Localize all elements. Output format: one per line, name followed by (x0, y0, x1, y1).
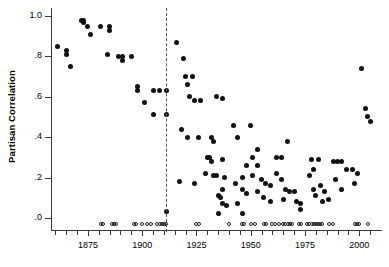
observation-marker (114, 222, 118, 226)
data-point (339, 187, 344, 192)
x-axis-tick-minor (175, 231, 176, 235)
data-point (285, 139, 290, 144)
data-point (142, 100, 147, 105)
y-axis-tick-label: .2 (34, 173, 42, 182)
data-point (320, 199, 325, 204)
data-point (85, 24, 90, 29)
observation-marker (357, 222, 361, 226)
x-axis-tick-minor (207, 231, 208, 235)
data-point (235, 135, 240, 140)
x-axis-tick-minor (316, 231, 317, 235)
x-axis-tick-minor (294, 231, 295, 235)
data-point (129, 54, 134, 59)
data-point (318, 183, 323, 188)
data-point (151, 112, 156, 117)
data-point (298, 201, 303, 206)
x-axis-tick-label: 1925 (186, 240, 206, 250)
y-axis-tick-label: .6 (34, 92, 42, 101)
data-point (355, 171, 360, 176)
x-axis-tick-minor (55, 231, 56, 235)
data-point (255, 189, 260, 194)
data-point (220, 187, 225, 192)
data-point (120, 58, 125, 63)
data-point (190, 74, 195, 79)
x-axis-tick-minor (240, 231, 241, 235)
x-axis-tick-minor (262, 231, 263, 235)
data-point (192, 98, 197, 103)
data-point (309, 157, 314, 162)
data-point (240, 175, 245, 180)
data-point (261, 195, 266, 200)
data-point (307, 173, 312, 178)
data-point (55, 44, 60, 49)
data-point (240, 211, 245, 216)
x-axis-tick-major (359, 231, 360, 236)
y-axis-tick-label: .8 (34, 51, 42, 60)
data-point (311, 167, 316, 172)
data-point (248, 123, 253, 128)
data-point (98, 24, 103, 29)
observation-marker (149, 222, 153, 226)
data-point (333, 177, 338, 182)
x-axis-tick-minor (131, 231, 132, 235)
data-point (313, 193, 318, 198)
data-point (250, 173, 255, 178)
data-point (224, 203, 229, 208)
y-axis-title: Partisan Correlation (0, 0, 22, 232)
data-point (352, 181, 357, 186)
x-axis-tick-minor (218, 231, 219, 235)
data-point (222, 175, 227, 180)
data-point (214, 173, 219, 178)
data-point (216, 211, 221, 216)
plot-area (51, 8, 381, 230)
data-point (179, 127, 184, 132)
data-point (185, 135, 190, 140)
data-point (268, 199, 273, 204)
era-divider-dashed-line (166, 8, 167, 232)
data-point (363, 106, 368, 111)
data-point (88, 32, 93, 37)
data-point (105, 52, 110, 57)
data-point (177, 179, 182, 184)
observation-marker (101, 222, 105, 226)
data-point (185, 82, 190, 87)
data-point (255, 147, 260, 152)
x-axis-tick-major (88, 231, 89, 236)
data-point (298, 207, 303, 212)
data-point (339, 159, 344, 164)
observation-marker (253, 222, 257, 226)
data-point (218, 195, 223, 200)
observation-marker (227, 222, 231, 226)
observation-marker (299, 222, 303, 226)
observation-marker (134, 222, 138, 226)
x-axis-tick-label: 1875 (78, 240, 98, 250)
observation-marker (264, 222, 268, 226)
data-point (268, 183, 273, 188)
data-point (181, 56, 186, 61)
data-point (233, 181, 238, 186)
x-axis-tick-label: 1900 (132, 240, 152, 250)
data-point (107, 28, 112, 33)
x-axis-tick-major (251, 231, 252, 236)
x-axis-tick-label: 1975 (295, 240, 315, 250)
observation-marker (145, 222, 149, 226)
data-point (220, 96, 225, 101)
data-point (174, 40, 179, 45)
x-axis-tick-major (142, 231, 143, 236)
observation-marker (197, 222, 201, 226)
data-point (255, 163, 260, 168)
data-point (244, 191, 249, 196)
data-point (279, 177, 284, 182)
x-axis-tick-major (196, 231, 197, 236)
data-point (64, 52, 69, 57)
x-axis-tick-minor (110, 231, 111, 235)
data-point (250, 155, 255, 160)
data-point (322, 189, 327, 194)
data-point (68, 64, 73, 69)
x-axis-tick-minor (370, 231, 371, 235)
x-axis-tick-minor (338, 231, 339, 235)
data-point (214, 94, 219, 99)
data-point (316, 157, 321, 162)
data-point (344, 167, 349, 172)
observation-marker (366, 222, 370, 226)
